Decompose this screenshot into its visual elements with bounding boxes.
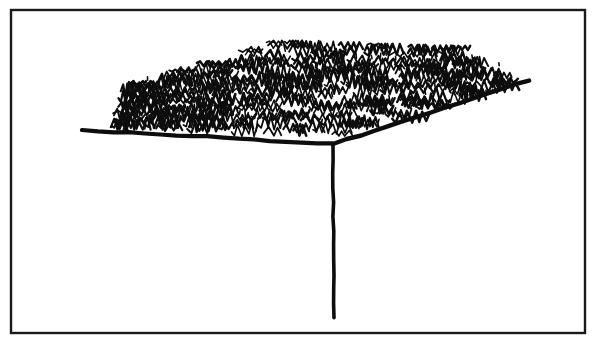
scribble-tick [200,98,201,104]
scribble-tick [272,117,273,120]
scribble-tick [400,87,401,91]
scribble-tick [170,78,171,84]
scribble-tick [196,114,197,118]
scribble-tick [223,102,224,105]
scribble-tick [139,122,140,125]
scribble-tick [127,89,128,94]
drawing-canvas: Perspective line drawing of a textured h… [0,0,599,344]
scribble-tick [315,63,316,68]
scribble-tick [411,105,412,108]
line-drawing-figure [0,0,599,344]
scribble-tick [424,52,425,57]
scribble-tick [389,96,390,102]
scribble-tick [240,111,241,115]
scribble-tick [437,69,438,75]
scribble-tick [371,55,372,59]
scribble-tick [501,75,502,80]
scribble-tick [425,88,426,94]
scribble-tick [224,88,225,93]
vertical-corner-line [333,145,334,318]
scribble-tick [247,98,248,103]
scribble-tick [255,70,256,74]
scribble-tick [435,83,436,90]
scribble-tick [386,50,387,56]
scribble-tick [332,92,333,97]
scribble-tick [360,77,361,81]
scribble-tick [270,85,271,89]
scribble-tick [180,68,181,73]
scribble-tick [405,62,406,66]
scribble-tick [454,89,455,95]
scribble-tick [387,56,388,61]
scribble-tick [194,104,195,109]
scribble-tick [306,68,307,73]
scribble-tick [370,120,371,125]
scribble-tick [472,55,473,62]
scribble-tick [145,124,146,129]
scribble-tick [256,129,257,132]
scribble-tick [245,111,246,117]
scribble-tick [187,68,188,72]
scribble-tick [267,82,268,87]
scribble-tick [236,121,237,126]
scribble-tick [170,94,171,100]
